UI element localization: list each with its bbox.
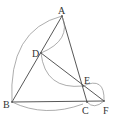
label-c: C	[82, 105, 89, 116]
label-f: F	[103, 105, 109, 116]
arc-bc	[12, 102, 83, 111]
point-f	[103, 100, 105, 102]
segment-ab	[12, 16, 62, 102]
label-d: D	[32, 48, 39, 59]
label-b: B	[3, 99, 10, 110]
segment-bf	[12, 101, 104, 102]
arc-da	[41, 16, 64, 53]
point-d	[40, 52, 42, 54]
point-c	[86, 101, 88, 103]
segment-ac	[62, 16, 87, 102]
point-b	[11, 101, 13, 103]
geometry-diagram: A D E B C F	[0, 0, 122, 119]
arc-cf	[87, 101, 104, 106]
label-a: A	[58, 5, 66, 16]
label-e: E	[84, 75, 90, 86]
